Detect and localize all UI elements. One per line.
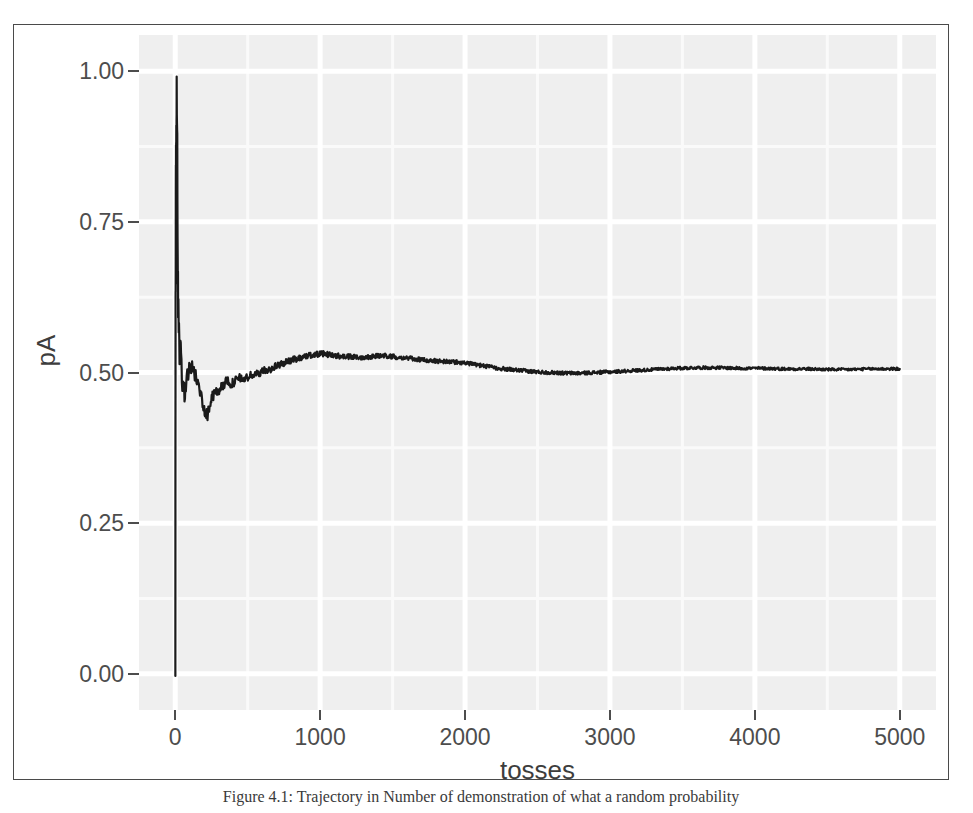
x-tick-mark (899, 710, 901, 720)
plot-panel (139, 35, 936, 710)
x-tick-label: 0 (169, 723, 182, 752)
x-axis-tick-labels: 010002000300040005000 (139, 723, 936, 755)
figure-page: pA 0.000.250.500.751.00 0100020003000400… (0, 0, 973, 813)
figure-caption: Figure 4.1: Trajectory in Number of demo… (13, 788, 949, 806)
x-tick-label: 1000 (295, 723, 346, 752)
x-tick-label: 2000 (439, 723, 490, 752)
y-tick-mark (128, 70, 139, 72)
chart-area: pA 0.000.250.500.751.00 0100020003000400… (14, 25, 948, 779)
y-tick-mark (128, 673, 139, 675)
x-axis-title: tosses (139, 755, 936, 786)
x-tick-label: 5000 (874, 723, 925, 752)
x-tick-label: 4000 (729, 723, 780, 752)
x-tick-mark (319, 710, 321, 720)
x-tick-mark (754, 710, 756, 720)
y-tick-mark (128, 522, 139, 524)
y-axis-tick-marks (14, 35, 139, 710)
y-tick-mark (128, 221, 139, 223)
x-tick-mark (174, 710, 176, 720)
y-tick-mark (128, 372, 139, 374)
x-tick-mark (609, 710, 611, 720)
figure-frame: pA 0.000.250.500.751.00 0100020003000400… (13, 24, 949, 780)
x-tick-mark (464, 710, 466, 720)
data-line-series (139, 35, 936, 710)
x-tick-label: 3000 (584, 723, 635, 752)
x-axis-tick-marks (139, 710, 936, 722)
